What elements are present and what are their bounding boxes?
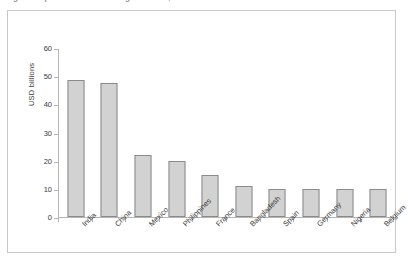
y-tick-mark — [54, 77, 58, 78]
bar-slot — [93, 49, 127, 217]
y-tick-mark — [54, 190, 58, 191]
plot-area: 0102030405060 — [58, 49, 394, 218]
bar[interactable] — [134, 155, 151, 217]
bar-slot — [227, 49, 261, 217]
y-tick-label: 10 — [44, 185, 52, 194]
y-tick-label: 0 — [48, 213, 52, 222]
y-tick-label: 20 — [44, 157, 52, 166]
bar-slot — [160, 49, 194, 217]
chart-frame: USD billions 0102030405060 IndiaChinaMex… — [7, 10, 396, 253]
bar-slot — [294, 49, 328, 217]
bars-layer — [59, 49, 394, 217]
bar-slot — [59, 49, 93, 217]
y-tick-mark — [54, 134, 58, 135]
bar[interactable] — [302, 189, 319, 217]
bar-slot — [328, 49, 362, 217]
y-tick-label: 60 — [44, 44, 52, 53]
y-tick-mark — [54, 105, 58, 106]
y-tick-mark — [54, 49, 58, 50]
y-axis-title: USD billions — [27, 63, 36, 106]
bar-slot — [261, 49, 295, 217]
bar[interactable] — [168, 161, 185, 217]
figure-caption-sliver: Figure: Top remittance-receiving countri… — [0, 0, 406, 7]
bar[interactable] — [67, 80, 84, 217]
bar-slot — [126, 49, 160, 217]
bar[interactable] — [235, 186, 252, 217]
bar[interactable] — [101, 83, 118, 217]
x-axis-labels: IndiaChinaMexicoPhilippinesFranceBanglad… — [58, 222, 394, 266]
bar[interactable] — [370, 189, 387, 217]
figure-caption-text: Figure: Top remittance-receiving countri… — [6, 0, 190, 2]
y-tick-label: 50 — [44, 72, 52, 81]
bar-slot — [361, 49, 395, 217]
bar-slot — [193, 49, 227, 217]
y-tick-label: 30 — [44, 129, 52, 138]
y-tick-label: 40 — [44, 100, 52, 109]
y-tick-mark — [54, 162, 58, 163]
